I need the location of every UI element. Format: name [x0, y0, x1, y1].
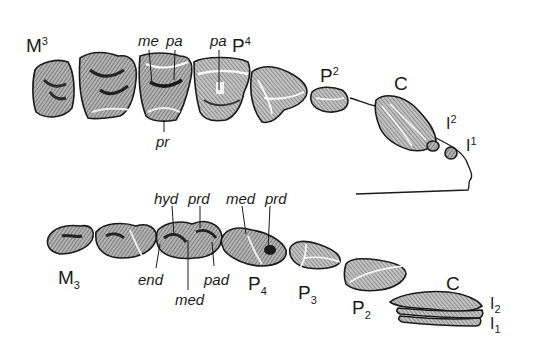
- label-lower-p2: P2: [352, 298, 371, 321]
- upper-jaw-margin: [350, 98, 376, 106]
- label-lower-p3: P3: [298, 283, 317, 306]
- label-upper-i1: I1: [466, 136, 477, 154]
- label-upper-p4: P4: [232, 36, 251, 55]
- lower-m2-tooth: [96, 224, 156, 258]
- cusp-label-lower-prd-p4: prd: [265, 191, 287, 206]
- label-upper-canine: C: [394, 74, 408, 93]
- label-upper-i2: I2: [446, 114, 457, 132]
- cusp-label-lower-prd-m1: prd: [188, 191, 210, 206]
- lower-m1-tooth: [157, 222, 223, 259]
- cusp-label-lower-med-m1: med: [175, 292, 204, 307]
- label-upper-m3: M3: [26, 36, 48, 55]
- upper-i2-tooth: [427, 141, 439, 151]
- upper-dentition: [33, 50, 472, 194]
- cusp-label-lower-pad: pad: [204, 272, 229, 287]
- cusp-label-upper-pr: pr: [156, 134, 169, 149]
- cusp-label-lower-end: end: [138, 272, 163, 287]
- label-lower-p4: P4: [248, 274, 267, 297]
- lower-m3-tooth: [48, 226, 94, 255]
- upper-canine-tooth: [375, 96, 436, 151]
- lower-dentition: [48, 206, 483, 326]
- upper-m3-tooth: [33, 60, 74, 117]
- cusp-label-lower-hyd: hyd: [154, 191, 178, 206]
- label-lower-canine: C: [446, 274, 460, 293]
- lower-p2-tooth: [345, 259, 407, 291]
- cusp-label-lower-med-p4: med: [226, 191, 255, 206]
- label-lower-i2: I2: [490, 296, 501, 315]
- label-lower-i1: I1: [490, 316, 501, 335]
- label-lower-m3: M3: [58, 268, 80, 291]
- cusp-label-upper-pa-m1: pa: [166, 33, 183, 48]
- lower-p3-tooth: [290, 241, 341, 268]
- cusp-label-upper-me: me: [138, 33, 159, 48]
- label-upper-p2: P2: [320, 66, 339, 85]
- cusp-label-upper-pa-p4: pa: [210, 33, 227, 48]
